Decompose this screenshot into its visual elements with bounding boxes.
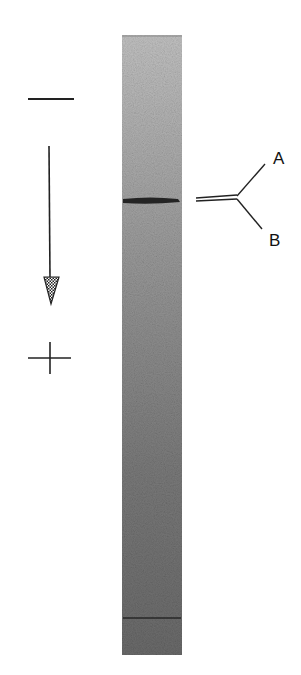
band-marker-line-2	[196, 199, 237, 201]
migration-arrow-head	[44, 277, 59, 304]
band-marker-line-1	[196, 195, 237, 198]
band-b-pointer	[237, 199, 262, 229]
gel-lane	[122, 35, 182, 655]
band-a-pointer	[237, 164, 265, 196]
band-label-b: B	[269, 232, 280, 249]
band-label-a: A	[273, 150, 284, 167]
migration-arrow-shaft	[49, 146, 50, 279]
figure-canvas	[0, 0, 301, 675]
